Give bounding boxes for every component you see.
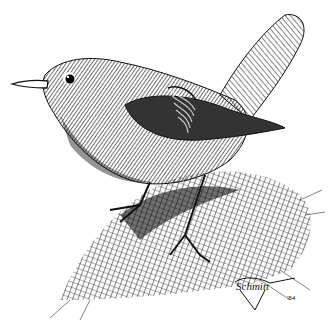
- rock: [50, 172, 325, 320]
- signature-name: Schmitt: [236, 280, 270, 292]
- beak: [12, 80, 48, 88]
- signature: Schmitt '84: [235, 278, 296, 310]
- illustration: Schmitt '84: [0, 0, 328, 327]
- eye: [63, 72, 75, 84]
- bird-drawing: Schmitt '84: [0, 0, 328, 327]
- signature-year: '84: [287, 294, 296, 302]
